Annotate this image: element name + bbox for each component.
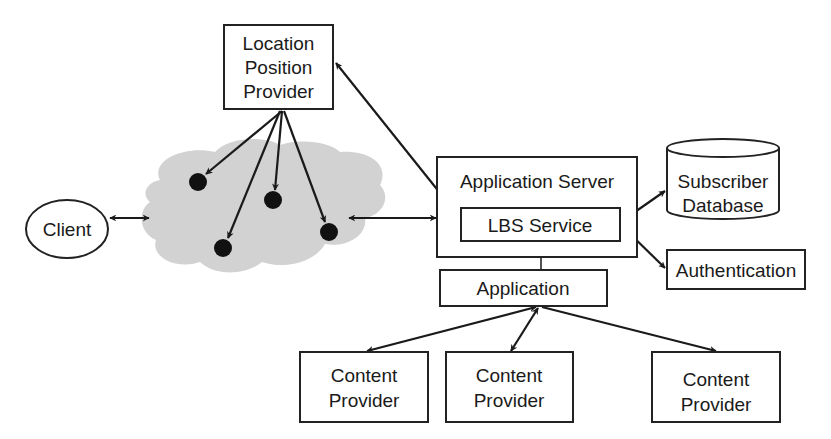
svg-text:LBS Service: LBS Service: [488, 215, 593, 236]
svg-text:Content: Content: [476, 365, 543, 386]
client-node: Client: [26, 200, 108, 258]
content-provider-node-3: Content Provider: [652, 352, 780, 422]
svg-text:Authentication: Authentication: [676, 260, 796, 281]
mobile-device-dot: [264, 191, 282, 209]
mobile-device-dot: [189, 173, 207, 191]
svg-text:Provider: Provider: [329, 390, 400, 411]
content-provider-node-2: Content Provider: [446, 352, 573, 422]
network-cloud: [142, 139, 386, 272]
svg-text:Location: Location: [243, 33, 315, 54]
lbs-service-node: LBS Service: [461, 208, 620, 241]
svg-text:Content: Content: [683, 369, 750, 390]
authentication-node: Authentication: [667, 250, 805, 289]
content-provider-node-1: Content Provider: [300, 352, 428, 422]
app-cp3-arrow: [542, 307, 716, 351]
svg-text:Provider: Provider: [243, 81, 314, 102]
svg-text:Subscriber: Subscriber: [678, 171, 769, 192]
svg-text:Provider: Provider: [474, 390, 545, 411]
app-cp1-arrow: [367, 307, 536, 351]
location-position-provider-node: Location Position Provider: [224, 25, 333, 109]
mobile-device-dot: [214, 239, 232, 257]
svg-text:Application Server: Application Server: [460, 171, 615, 192]
lbs-architecture-diagram: Location Position Provider Client Applic…: [0, 0, 831, 439]
subscriber-database-node: Subscriber Database: [667, 139, 779, 219]
svg-text:Position: Position: [245, 57, 313, 78]
svg-text:Database: Database: [682, 195, 763, 216]
mobile-device-dot: [320, 223, 338, 241]
svg-text:Client: Client: [43, 219, 92, 240]
app-cp2-arrow: [511, 308, 538, 351]
svg-text:Content: Content: [331, 365, 398, 386]
application-node: Application: [440, 270, 607, 306]
svg-text:Provider: Provider: [681, 394, 752, 415]
svg-text:Application: Application: [477, 278, 570, 299]
